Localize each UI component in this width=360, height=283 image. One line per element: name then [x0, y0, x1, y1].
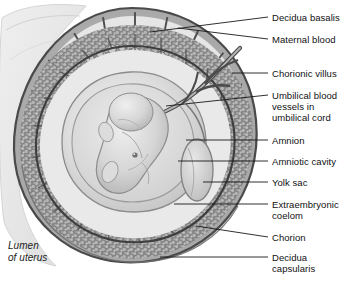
annotation-lumen-of-uterus: Lumen of uterus	[8, 240, 47, 264]
label-decidua-basalis: Decidua basalis	[272, 12, 340, 23]
label-amnion: Amnion	[272, 135, 305, 146]
yolk-sac	[181, 139, 213, 201]
embryo-in-uterus-figure: Decidua basalisMaternal bloodChorionic v…	[0, 0, 360, 283]
label-umbilical-vessels: Umbilical blood vessels in umbilical cor…	[272, 90, 337, 124]
label-chorion: Chorion	[272, 232, 306, 243]
label-maternal-blood: Maternal blood	[272, 34, 336, 45]
label-yolk-sac: Yolk sac	[272, 177, 307, 188]
label-amniotic-cavity: Amniotic cavity	[272, 156, 336, 167]
label-chorionic-villus: Chorionic villus	[272, 68, 337, 79]
label-extraembryonic-coelom: Extraembryonic coelom	[272, 199, 339, 221]
label-decidua-capsularis: Decidua capsularis	[272, 252, 315, 274]
